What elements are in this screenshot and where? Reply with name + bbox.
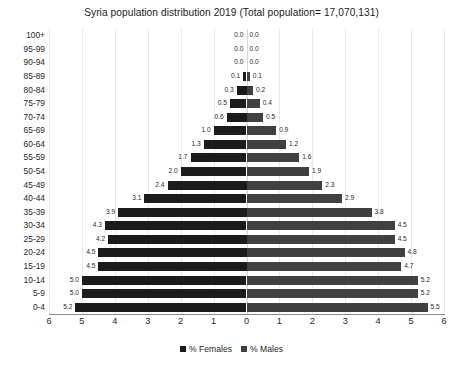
bar-male — [247, 235, 395, 244]
legend-item[interactable]: % Males — [241, 344, 283, 354]
value-label-female: 2.4 — [139, 182, 165, 189]
pyramid-row: 2.42.3 — [49, 178, 444, 192]
pyramid-row: 0.50.4 — [49, 97, 444, 111]
x-axis-line — [49, 314, 445, 315]
value-label-female: 4.2 — [79, 236, 105, 243]
bar-female — [82, 276, 247, 285]
x-tick-label: 6 — [34, 317, 64, 326]
bar-male — [247, 276, 418, 285]
y-tick-label: 85-89 — [1, 72, 45, 80]
pyramid-row: 0.00.0 — [49, 29, 444, 43]
plot-area: 0.00.00.00.00.00.00.10.10.30.20.50.40.60… — [49, 29, 444, 314]
pyramid-row: 3.12.9 — [49, 192, 444, 206]
bar-male — [247, 303, 428, 312]
legend-label: % Females — [189, 344, 232, 354]
value-label-female: 0.0 — [218, 59, 244, 66]
value-label-female: 4.3 — [76, 222, 102, 229]
y-tick-label: 70-74 — [1, 113, 45, 121]
chart-legend: % Females% Males — [0, 344, 463, 354]
bar-male — [247, 289, 418, 298]
chart-title: Syria population distribution 2019 (Tota… — [0, 7, 463, 18]
value-label-male: 2.3 — [325, 182, 351, 189]
bar-male — [247, 140, 287, 149]
bar-female — [144, 194, 246, 203]
value-label-female: 0.5 — [201, 100, 227, 107]
x-tick-label: 6 — [429, 317, 459, 326]
bar-female — [230, 99, 246, 108]
pyramid-row: 5.05.2 — [49, 287, 444, 301]
gridline — [444, 29, 445, 314]
bar-female — [82, 289, 247, 298]
pyramid-row: 4.24.5 — [49, 233, 444, 247]
y-tick-label: 50-54 — [1, 167, 45, 175]
y-tick-label: 30-34 — [1, 221, 45, 229]
bar-male — [247, 248, 405, 257]
pyramid-row: 4.54.7 — [49, 260, 444, 274]
bar-male — [247, 126, 277, 135]
value-label-male: 4.5 — [398, 236, 424, 243]
value-label-male: 0.0 — [250, 59, 276, 66]
pyramid-row: 1.31.2 — [49, 138, 444, 152]
x-tick-label: 1 — [264, 317, 294, 326]
x-tick-label: 4 — [363, 317, 393, 326]
value-label-female: 5.0 — [53, 277, 79, 284]
value-label-female: 3.1 — [115, 195, 141, 202]
y-tick-label: 40-44 — [1, 194, 45, 202]
value-label-female: 0.1 — [214, 73, 240, 80]
bar-female — [98, 248, 246, 257]
bar-male — [247, 167, 310, 176]
y-tick-label: 90-94 — [1, 58, 45, 66]
bar-female — [118, 208, 246, 217]
value-label-male: 0.1 — [253, 73, 279, 80]
bar-female — [105, 221, 247, 230]
value-label-male: 1.6 — [302, 154, 328, 161]
value-label-female: 1.0 — [185, 127, 211, 134]
y-tick-label: 75-79 — [1, 99, 45, 107]
value-label-male: 5.5 — [431, 304, 457, 311]
x-tick-label: 4 — [100, 317, 130, 326]
value-label-male: 5.2 — [421, 290, 447, 297]
value-label-male: 1.2 — [289, 141, 315, 148]
value-label-male: 0.5 — [266, 114, 292, 121]
bar-male — [247, 208, 372, 217]
value-label-male: 0.0 — [250, 32, 276, 39]
y-tick-label: 80-84 — [1, 86, 45, 94]
y-tick-label: 20-24 — [1, 248, 45, 256]
y-tick-label: 5-9 — [1, 289, 45, 297]
y-tick-label: 45-49 — [1, 181, 45, 189]
pyramid-row: 0.00.0 — [49, 56, 444, 70]
bar-male — [247, 194, 342, 203]
y-tick-label: 25-29 — [1, 235, 45, 243]
value-label-female: 3.9 — [89, 209, 115, 216]
value-label-male: 0.9 — [279, 127, 305, 134]
pyramid-row: 5.25.5 — [49, 300, 444, 314]
y-tick-label: 0-4 — [1, 303, 45, 311]
value-label-female: 4.5 — [69, 249, 95, 256]
y-tick-label: 10-14 — [1, 276, 45, 284]
value-label-female: 2.0 — [152, 168, 178, 175]
legend-item[interactable]: % Females — [180, 344, 232, 354]
pyramid-row: 0.60.5 — [49, 110, 444, 124]
y-tick-label: 65-69 — [1, 126, 45, 134]
bar-female — [237, 86, 247, 95]
y-tick-label: 35-39 — [1, 208, 45, 216]
value-label-male: 4.5 — [398, 222, 424, 229]
value-label-female: 1.7 — [162, 154, 188, 161]
x-tick-label: 3 — [133, 317, 163, 326]
pyramid-row: 1.00.9 — [49, 124, 444, 138]
legend-label: % Males — [250, 344, 283, 354]
value-label-male: 0.0 — [250, 46, 276, 53]
bar-male — [247, 86, 254, 95]
bar-male — [247, 72, 250, 81]
value-label-male: 0.4 — [263, 100, 289, 107]
value-label-female: 5.0 — [53, 290, 79, 297]
value-label-female: 0.3 — [208, 87, 234, 94]
y-tick-label: 55-59 — [1, 153, 45, 161]
bar-female — [108, 235, 246, 244]
bar-female — [181, 167, 247, 176]
value-label-male: 4.7 — [404, 263, 430, 270]
pyramid-row: 3.93.8 — [49, 205, 444, 219]
y-tick-label: 100+ — [1, 31, 45, 39]
pyramid-row: 4.54.8 — [49, 246, 444, 260]
pyramid-row: 5.05.2 — [49, 273, 444, 287]
